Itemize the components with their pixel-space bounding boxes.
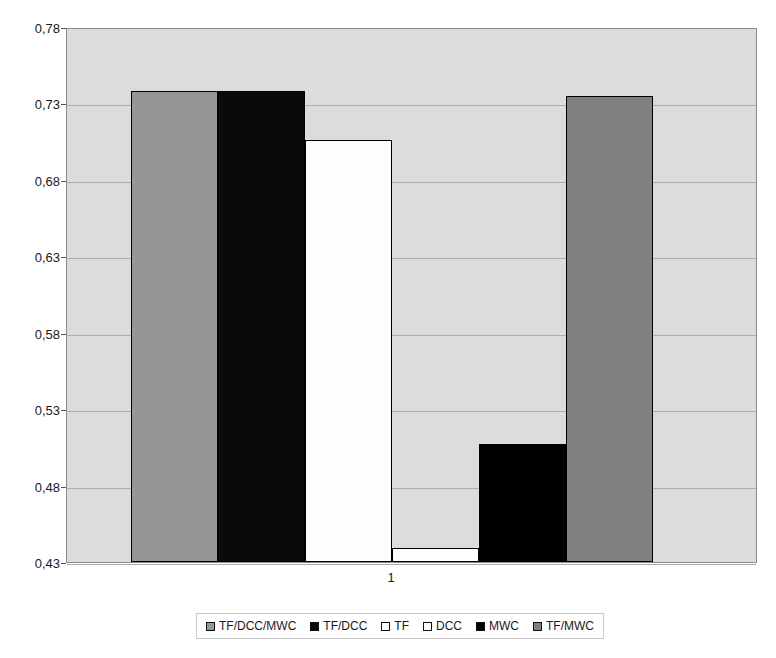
y-axis-tick-label: 0,73 bbox=[8, 98, 60, 111]
bar-chart: 0,780,730,680,630,580,530,480,43 1 TF/DC… bbox=[0, 0, 776, 658]
legend-swatch-icon bbox=[206, 622, 215, 631]
bar-tf bbox=[305, 140, 392, 562]
legend-item: TF/DCC bbox=[310, 620, 367, 632]
legend-label: TF bbox=[394, 620, 409, 632]
y-axis-tick-label: 0,48 bbox=[8, 480, 60, 493]
x-axis-tick-label: 1 bbox=[387, 570, 394, 585]
y-axis: 0,780,730,680,630,580,530,480,43 bbox=[0, 0, 60, 658]
y-axis-tick-mark bbox=[61, 563, 66, 564]
bar-tf-mwc bbox=[566, 96, 653, 562]
legend-swatch-icon bbox=[310, 622, 319, 631]
legend-swatch-icon bbox=[476, 622, 485, 631]
legend-item: TF/MWC bbox=[533, 620, 594, 632]
bar-tf-dcc bbox=[218, 91, 305, 562]
bar-dcc bbox=[392, 548, 479, 562]
legend-item: MWC bbox=[476, 620, 519, 632]
y-axis-tick-label: 0,43 bbox=[8, 557, 60, 570]
legend-item: DCC bbox=[423, 620, 462, 632]
legend-label: TF/DCC bbox=[323, 620, 367, 632]
gridline bbox=[67, 564, 756, 565]
chart-legend: TF/DCC/MWCTF/DCCTFDCCMWCTF/MWC bbox=[196, 613, 604, 639]
legend-label: TF/MWC bbox=[546, 620, 594, 632]
legend-item: TF bbox=[381, 620, 409, 632]
legend-label: DCC bbox=[436, 620, 462, 632]
legend-label: TF/DCC/MWC bbox=[219, 620, 296, 632]
plot-area bbox=[66, 28, 757, 563]
legend-swatch-icon bbox=[381, 622, 390, 631]
legend-swatch-icon bbox=[423, 622, 432, 631]
bar-tf-dcc-mwc bbox=[131, 91, 218, 562]
legend-swatch-icon bbox=[533, 622, 542, 631]
legend-label: MWC bbox=[489, 620, 519, 632]
y-axis-tick-label: 0,63 bbox=[8, 251, 60, 264]
legend-item: TF/DCC/MWC bbox=[206, 620, 296, 632]
y-axis-tick-label: 0,78 bbox=[8, 22, 60, 35]
y-axis-tick-label: 0,58 bbox=[8, 327, 60, 340]
bar-mwc bbox=[479, 444, 566, 562]
y-axis-tick-label: 0,68 bbox=[8, 174, 60, 187]
y-axis-tick-label: 0,53 bbox=[8, 404, 60, 417]
